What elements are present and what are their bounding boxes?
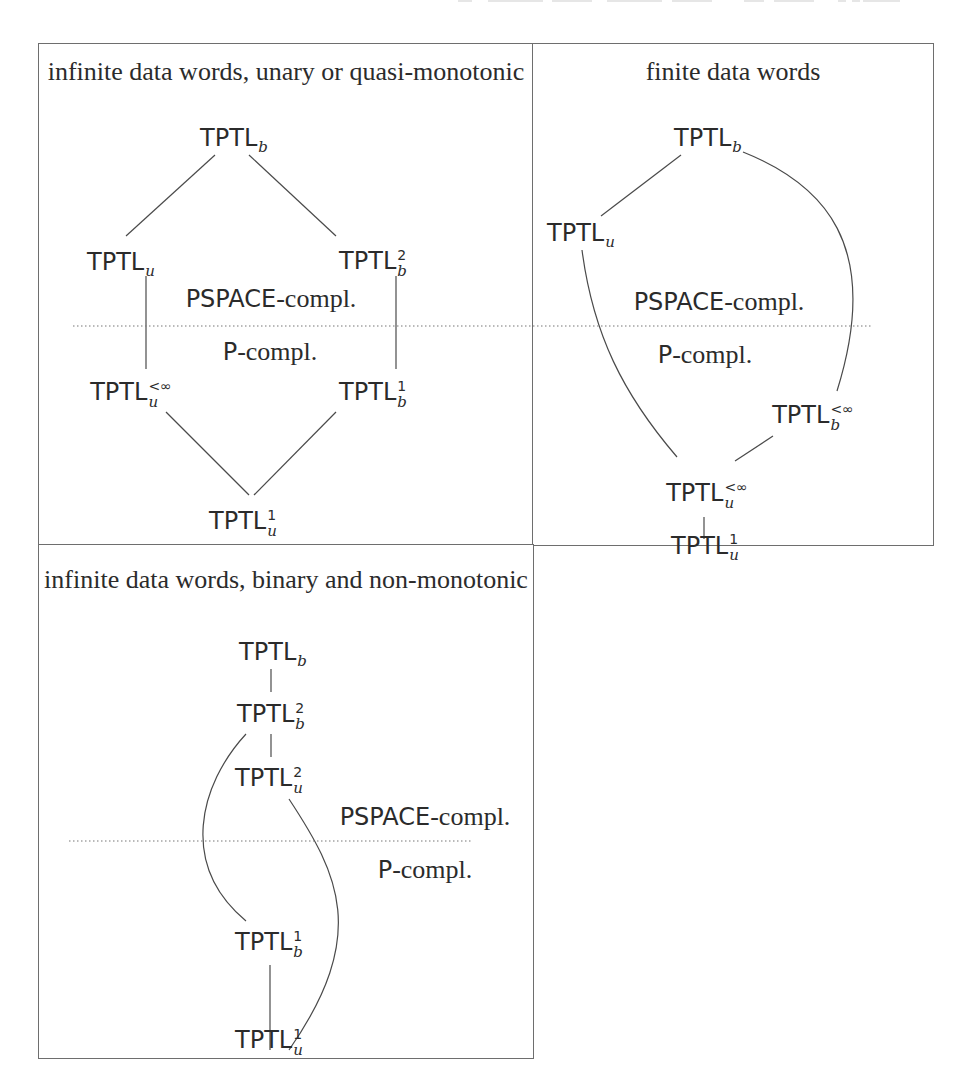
label-p-complete: P-compl. — [658, 342, 753, 368]
edge-binf-uinf — [735, 436, 773, 461]
cut-off-page-header — [300, 0, 970, 4]
node-tptl-b-2: TPTL2b — [237, 701, 305, 730]
panel-finite-data-words: finite data words TPTLb TPTLu TPTL<∞b TP… — [532, 43, 934, 546]
node-tptl-b-1: TPTL1b — [339, 379, 407, 408]
node-tptl-u-finite-bound: TPTL<∞u — [666, 480, 748, 509]
edge-uinf-u1 — [166, 412, 249, 495]
edge-b1-u1 — [254, 412, 336, 495]
node-tptl-b: TPTLb — [674, 126, 742, 150]
node-tptl-b-finite-bound: TPTL<∞b — [772, 402, 854, 431]
edge-b-binf — [743, 152, 853, 391]
label-pspace-complete: PSPACE-compl. — [340, 804, 511, 830]
edge-b-u — [601, 155, 681, 216]
panel-unary-quasi-monotonic: infinite data words, unary or quasi-mono… — [38, 43, 534, 546]
edge-u2-u1 — [289, 799, 338, 1050]
edge-b-b2 — [249, 155, 336, 236]
label-p-complete: P-compl. — [223, 339, 318, 365]
label-pspace-complete: PSPACE-compl. — [186, 286, 357, 312]
node-tptl-b: TPTLb — [200, 126, 268, 150]
label-p-complete: P-compl. — [378, 857, 473, 883]
node-tptl-u-1: TPTL1u — [209, 508, 277, 537]
node-tptl-b: TPTLb — [239, 640, 307, 664]
node-tptl-u-1: TPTL1u — [671, 532, 739, 561]
label-pspace-complete: PSPACE-compl. — [634, 289, 805, 315]
panel-binary-non-monotonic: infinite data words, binary and non-mono… — [38, 544, 534, 1059]
edge-b-u — [126, 155, 215, 236]
node-tptl-u: TPTLu — [87, 250, 155, 274]
node-tptl-u-1: TPTL1u — [235, 1027, 303, 1056]
node-tptl-b-1: TPTL1b — [235, 929, 303, 958]
node-tptl-u-2: TPTL2u — [235, 765, 303, 794]
node-tptl-u-finite-bound: TPTL<∞u — [90, 379, 172, 408]
node-tptl-u: TPTLu — [547, 221, 615, 245]
node-tptl-b-2: TPTL2b — [339, 248, 407, 277]
edge-b2-b1 — [203, 734, 246, 921]
